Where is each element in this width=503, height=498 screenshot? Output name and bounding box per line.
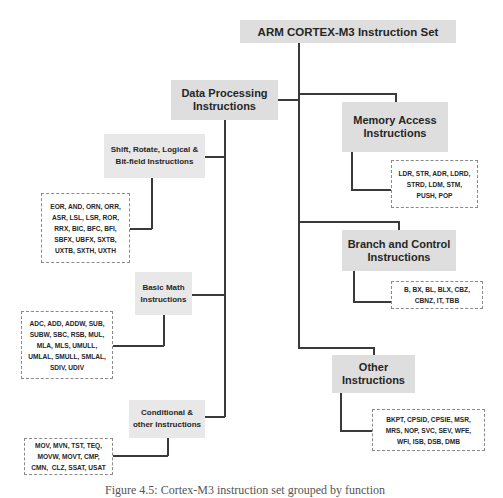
connector-dp	[278, 99, 299, 101]
other-instruction-list: BKPT, CPSID, CPSIE, MSR, MRS, NOP, SVC, …	[372, 409, 485, 451]
connector-other-h	[298, 347, 374, 349]
connector-math-list-h	[113, 345, 164, 347]
branch-control-label-2: Instructions	[368, 251, 431, 264]
list-line: CMN, CLZ, SSAT, USAT	[31, 462, 105, 473]
connector-cond-list-h	[113, 455, 168, 457]
connector-branch-list-h	[353, 301, 392, 303]
connector-shift-list-v	[151, 178, 153, 229]
basic-math-label-1: Basic Math	[142, 282, 184, 294]
connector-mem-list-v	[351, 152, 353, 190]
list-line: SUBW, SBC, RSB, MUL,	[30, 329, 105, 340]
list-line: RRX, BIC, BFC, BFI,	[54, 223, 116, 234]
list-line: WFI, ISB, DSB, DMB	[397, 436, 460, 447]
other-label-1: Other	[359, 361, 388, 374]
basic-math-label-2: Instructions	[141, 294, 187, 306]
data-processing-label-2: Instructions	[193, 100, 256, 113]
shift-rotate-label-2: Bit-field Instructions	[116, 156, 194, 168]
figure-caption: Figure 4.5: Cortex-M3 instruction set gr…	[105, 483, 385, 498]
conditional-label-2: other Instructions	[133, 419, 201, 431]
connector-math-list-v	[163, 315, 165, 346]
shift-rotate-label-1: Shift, Rotate, Logical &	[111, 144, 199, 156]
conditional-label-1: Conditional &	[141, 407, 193, 419]
root-title-box: ARM CORTEX-M3 Instruction Set	[240, 20, 456, 43]
other-instructions-box: Other Instructions	[332, 355, 415, 393]
conditional-instruction-list: MOV, MVN, TST, TEQ, MOVW, MOVT, CMP, CMN…	[24, 438, 113, 475]
data-processing-label-1: Data Processing	[181, 87, 267, 100]
data-processing-box: Data Processing Instructions	[171, 80, 278, 120]
other-label-2: Instructions	[342, 374, 405, 387]
connector-branch-list-v	[353, 271, 355, 302]
basic-math-box: Basic Math Instructions	[135, 272, 192, 315]
connector-dp-trunk	[224, 120, 226, 417]
list-line: MOVW, MOVT, CMP,	[37, 451, 99, 462]
connector-shift-list-h	[130, 228, 152, 230]
memory-access-label-1: Memory Access	[353, 114, 436, 127]
basic-math-instruction-list: ADC, ADD, ADDW, SUB, SUBW, SBC, RSB, MUL…	[21, 311, 113, 379]
connector-cond-list-v	[167, 437, 169, 456]
list-line: SBFX, UBFX, SXTB,	[54, 234, 116, 245]
connector-cond	[205, 416, 225, 418]
branch-control-box: Branch and Control Instructions	[342, 230, 456, 271]
connector-other-v	[373, 347, 375, 355]
list-line: ADC, ADD, ADDW, SUB,	[30, 318, 105, 329]
connector-branch-v	[398, 221, 400, 230]
branch-control-label-1: Branch and Control	[348, 238, 451, 251]
list-line: BKPT, CPSID, CPSIE, MSR,	[386, 414, 471, 425]
shift-rotate-instruction-list: EOR, AND, ORN, ORR, ASR, LSL, LSR, ROR, …	[41, 193, 130, 263]
list-line: PUSH, POP	[417, 190, 453, 201]
conditional-box: Conditional & other Instructions	[129, 400, 205, 438]
list-line: MOV, MVN, TST, TEQ,	[35, 440, 102, 451]
memory-access-box: Memory Access Instructions	[342, 102, 448, 152]
connector-other-list-v	[340, 393, 342, 431]
connector-mem-list-h	[351, 189, 391, 191]
list-line: MRS, NOP, SVC, SEV, WFE,	[386, 425, 471, 436]
list-line: MLA, MLS, UMULL,	[37, 340, 97, 351]
connector-mem-v	[395, 93, 397, 102]
connector-mem-h	[299, 93, 396, 95]
connector-other-list-h	[340, 430, 373, 432]
list-line: B, BX, BL, BLX, CBZ,	[404, 284, 470, 295]
list-line: CBNZ, IT, TBB	[415, 295, 459, 306]
list-line: LDR, STR, ADR, LDRD,	[399, 168, 471, 179]
shift-rotate-box: Shift, Rotate, Logical & Bit-field Instr…	[104, 134, 205, 178]
connector-main-trunk	[298, 43, 300, 348]
list-line: UMLAL, SMULL, SMLAL,	[28, 351, 106, 362]
list-line: ASR, LSL, LSR, ROR,	[52, 212, 119, 223]
memory-access-instruction-list: LDR, STR, ADR, LDRD, STRD, LDM, STM, PUS…	[391, 160, 478, 208]
list-line: EOR, AND, ORN, ORR,	[50, 201, 120, 212]
connector-branch-h	[299, 221, 399, 223]
connector-math	[192, 294, 225, 296]
connector-shift	[205, 156, 225, 158]
list-line: SDIV, UDIV	[50, 362, 84, 373]
list-line: UXTB, SXTH, UXTH	[55, 245, 116, 256]
branch-control-instruction-list: B, BX, BL, BLX, CBZ, CBNZ, IT, TBB	[391, 281, 483, 309]
memory-access-label-2: Instructions	[364, 127, 427, 140]
list-line: STRD, LDM, STM,	[407, 179, 462, 190]
root-title: ARM CORTEX-M3 Instruction Set	[258, 26, 439, 38]
